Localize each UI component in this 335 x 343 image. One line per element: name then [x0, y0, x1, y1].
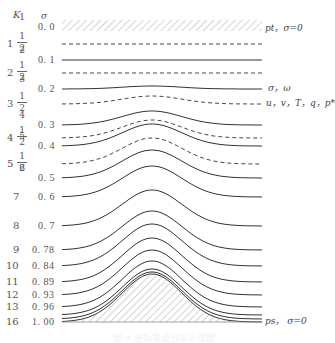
- top-boundary-label: pt，σ=0: [265, 24, 303, 33]
- sigma-level-curve: [62, 211, 262, 250]
- k-level-label: 2: [17, 46, 27, 55]
- sigma-column-header: σ: [41, 12, 47, 21]
- k-level-label: 9: [13, 245, 19, 255]
- sigma-level-curve: [62, 86, 262, 89]
- k-half-level-label: 5: [7, 159, 13, 169]
- k-half-level-label: 4: [7, 133, 13, 143]
- sigma-value-label: 0. 84: [32, 261, 55, 271]
- figure-caption: 图 σ 坐标垂直分层示意图: [0, 331, 328, 343]
- sigma-value-label: 0. 1: [38, 55, 55, 65]
- k-half-level-label: 2: [7, 68, 13, 78]
- k-level-label: 8: [13, 221, 19, 231]
- k-level-label: 16: [6, 317, 19, 327]
- sigma-level-curve: [62, 124, 262, 146]
- k-half-level-label: 3: [7, 99, 13, 109]
- k-level-label: 6: [17, 164, 27, 173]
- top-boundary-hatch: [62, 20, 262, 31]
- sigma-value-label: 0. 3: [38, 120, 55, 130]
- k-level-label: 13: [6, 302, 19, 312]
- sigma-value-label: 0. 5: [38, 173, 55, 183]
- sigma-value-label: 0. 2: [38, 84, 55, 94]
- k-level-label: 5: [17, 132, 27, 141]
- fraction-numerator: 1: [17, 152, 27, 161]
- fraction-numerator: 1: [17, 61, 27, 70]
- k-level-label: 11: [6, 277, 19, 287]
- sigma-value-label: 0. 93: [32, 290, 55, 300]
- sigma-value-label: 0. 0: [38, 22, 55, 32]
- sigma-value-label: 0. 96: [32, 302, 55, 312]
- sigma-value-label: 0. 7: [38, 221, 55, 231]
- k-level-label: 4: [17, 111, 27, 120]
- k-level-label: 10: [6, 261, 19, 271]
- sigma-value-label: 0. 89: [32, 277, 55, 287]
- k-level-label: 3: [17, 75, 27, 84]
- sigma-level-curve: [62, 190, 262, 226]
- k-half-level-label: 1: [7, 39, 13, 49]
- sigma-value-label: 1. 00: [32, 317, 55, 327]
- sigma-value-label: 0. 6: [38, 192, 55, 202]
- k-level-label: 1: [17, 13, 27, 22]
- k-level-label: 12: [6, 290, 19, 300]
- dashed-lines-legend: u，v，T，q，p*: [266, 99, 335, 108]
- sigma-value-label: 0. 78: [32, 245, 55, 255]
- sigma-value-label: 0. 4: [38, 141, 55, 151]
- sigma-level-curve: [62, 150, 262, 178]
- sigma-level-curve: [62, 111, 262, 125]
- fraction-numerator: 1: [17, 92, 27, 101]
- half-level-dashed-curve: [62, 96, 262, 104]
- bottom-boundary-label: ps， σ=0: [265, 317, 307, 326]
- solid-lines-legend: σ，ω: [268, 84, 290, 93]
- fraction-numerator: 1: [17, 32, 27, 41]
- k-level-label: 7: [13, 192, 19, 202]
